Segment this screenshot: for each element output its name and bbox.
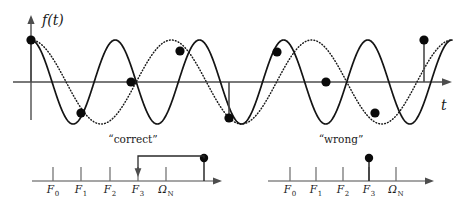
spectrum-right-alias-dot (365, 154, 373, 162)
sample-dot-2 (126, 77, 135, 86)
spectrum-right-ticks (290, 167, 396, 181)
spectrum-right-tick-label-2: F2 (336, 183, 349, 198)
spectrum-right-caption: “wrong” (319, 133, 364, 145)
spectrum-left-ticks (53, 167, 166, 181)
spectrum-left-caption: “correct” (108, 133, 157, 145)
spectrum-right-tick-labels: F0F1F2F3ΩN (283, 183, 404, 198)
spectrum-left-arrow-icon (213, 178, 222, 185)
sample-dot-1 (76, 108, 85, 117)
spectrum-right-tick-label-3: F3 (362, 183, 375, 198)
spectrum-left-tick-label-3: F3 (131, 183, 144, 198)
spectrum-left-tick-labels: F0F1F2F3ΩN (46, 183, 174, 198)
sample-dot-4 (224, 113, 233, 122)
fold-back-down-arrow-icon (135, 168, 142, 177)
sample-dot-5 (272, 47, 281, 56)
spectrum-right-tick-label-1: F1 (309, 183, 322, 198)
spectrum-left-tick-label-0: F0 (46, 183, 59, 198)
aliasing-figure: f(t) t “correct” F0F1F2F3ΩN “wrong” F0F1… (0, 0, 463, 211)
waveform-panel: f(t) t (13, 12, 452, 124)
sample-dot-7 (370, 108, 379, 117)
x-axis-arrow-icon (442, 78, 452, 86)
spectrum-left-tick-label-1: F1 (74, 183, 87, 198)
sample-dot-0 (26, 35, 35, 44)
spectrum-right-panel: “wrong” F0F1F2F3ΩN (268, 133, 434, 198)
fold-back-arrow-line (138, 156, 204, 170)
spectrum-right-arrow-icon (425, 178, 434, 185)
spectrum-left-tick-label-4: ΩN (157, 183, 173, 198)
x-axis-label: t (441, 97, 447, 113)
spectrum-right-tick-label-4: ΩN (387, 183, 403, 198)
sample-points-group (26, 35, 428, 122)
spectrum-left-panel: “correct” F0F1F2F3ΩN (32, 133, 222, 198)
spectrum-right-tick-label-0: F0 (283, 183, 296, 198)
y-axis-arrow-icon (27, 15, 34, 24)
sample-dot-3 (175, 46, 184, 55)
sample-dot-8 (419, 35, 428, 44)
spectrum-left-tick-label-2: F2 (103, 183, 116, 198)
sample-dot-6 (321, 77, 330, 86)
y-axis-label: f(t) (41, 12, 64, 28)
